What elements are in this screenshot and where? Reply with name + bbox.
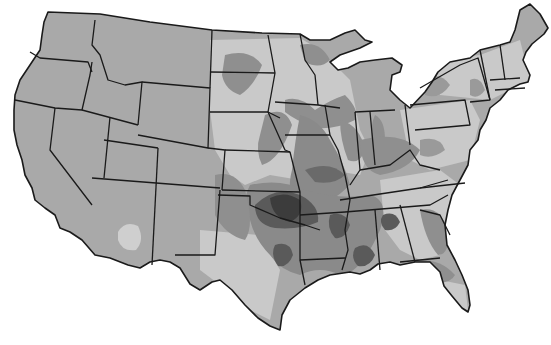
us-map-svg [0, 0, 551, 345]
us-map [0, 0, 551, 345]
